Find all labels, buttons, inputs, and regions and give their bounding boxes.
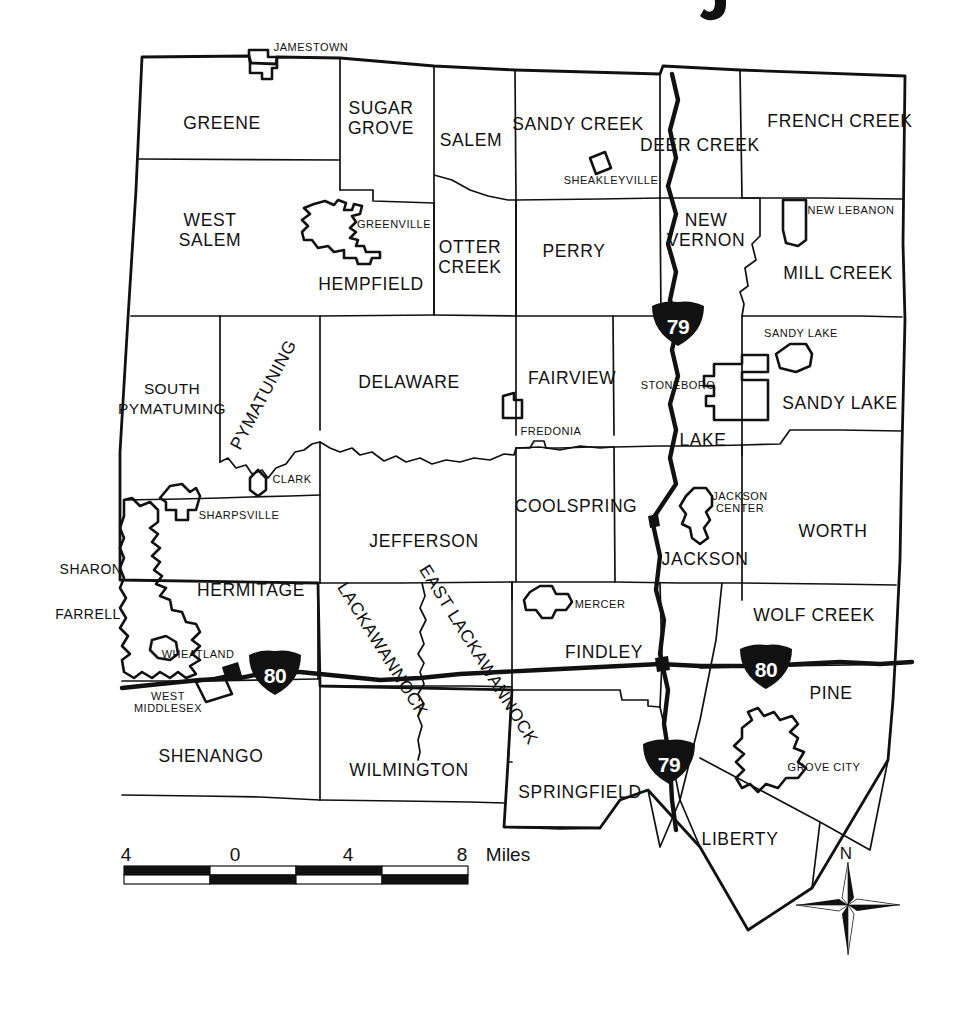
township-label-pymatuning: PYMATUNING bbox=[225, 336, 300, 453]
div-newvernon-millcreek bbox=[740, 198, 760, 316]
township-label-hermitage: HERMITAGE bbox=[197, 580, 305, 600]
compass-point-north-light bbox=[842, 862, 848, 905]
scale-tick-label-1: 0 bbox=[230, 844, 241, 865]
township-label-hempfield: HEMPFIELD bbox=[318, 274, 424, 294]
title-fragment bbox=[700, 0, 726, 20]
borough-label-mercer: MERCER bbox=[575, 598, 626, 610]
township-label-delaware: DELAWARE bbox=[358, 372, 460, 392]
township-label-wilmington: WILMINGTON bbox=[349, 760, 468, 780]
township-label-otter-creek: OTTERCREEK bbox=[438, 237, 501, 277]
township-label-deer-creek: DEER CREEK bbox=[640, 135, 760, 155]
scale-unit-label: Miles bbox=[486, 844, 530, 865]
scale-tick-label-3: 8 bbox=[457, 844, 468, 865]
township-label-lake: LAKE bbox=[679, 430, 726, 450]
borough-label-jackson-center: JACKSONCENTER bbox=[712, 490, 767, 514]
municipal-boundaries bbox=[120, 56, 905, 930]
scale-tick-label-0: 4 bbox=[121, 844, 132, 865]
township-label-jefferson: JEFFERSON bbox=[369, 531, 478, 551]
scale-bar-segment bbox=[124, 875, 210, 884]
city-label-farrell: FARRELL bbox=[55, 606, 121, 622]
township-label-sugar-grove: SUGARGROVE bbox=[348, 98, 414, 138]
township-label-sandy-lake: SANDY LAKE bbox=[782, 393, 898, 413]
scale-bar-segment bbox=[296, 875, 382, 884]
shield-route-number: 79 bbox=[658, 753, 680, 776]
scale-bar-segment bbox=[382, 875, 468, 884]
township-label-shenango: SHENANGO bbox=[159, 746, 264, 766]
div-lake-worth bbox=[742, 430, 902, 445]
borough-label-greenville: GREENVILLE bbox=[357, 218, 431, 230]
boro-sandy-lake bbox=[776, 344, 812, 372]
div-sugargrove-hempfield bbox=[340, 190, 434, 203]
township-label-liberty: LIBERTY bbox=[702, 829, 779, 849]
div-sandycreek-perry bbox=[516, 198, 660, 200]
scale-bar-segment bbox=[296, 866, 382, 875]
township-label-french-creek: FRENCH CREEK bbox=[767, 111, 912, 131]
boro-sheakleyville bbox=[590, 152, 611, 174]
scale-tick-label-2: 4 bbox=[343, 844, 354, 865]
scale-bar-segment bbox=[210, 875, 296, 884]
scale-bar-segment bbox=[124, 866, 210, 875]
div-frenchcreek-millcreek bbox=[742, 198, 903, 199]
township-label-springfield: SPRINGFIELD bbox=[518, 782, 641, 802]
div-greene-westsalem bbox=[139, 159, 340, 160]
township-label-lackawannock: LACKAWANNOCK bbox=[334, 578, 433, 720]
boro-greenville bbox=[302, 200, 380, 264]
compass-point-east-light bbox=[848, 899, 900, 905]
div-jefferson-lackawannock bbox=[320, 582, 896, 585]
township-label-sandy-creek: SANDY CREEK bbox=[512, 114, 644, 134]
div-salem-ottercreek bbox=[434, 175, 516, 200]
borough-label-jamestown: JAMESTOWN bbox=[274, 41, 349, 53]
township-label-east-lackawannock: EAST LACKAWANNOCK bbox=[416, 561, 543, 748]
city-label-sharon: SHARON bbox=[60, 561, 123, 577]
interstate-shield-80-2: 80 bbox=[249, 651, 301, 696]
mercer-county-map: 79798080 GREENESUGARGROVESALEMSANDY CREE… bbox=[0, 0, 956, 1015]
township-label-coolspring: COOLSPRING bbox=[515, 496, 638, 516]
borough-label-stoneboro: STONEBORO bbox=[641, 379, 716, 391]
interchange-marker-jackson bbox=[648, 514, 660, 528]
shield-route-number: 80 bbox=[264, 664, 286, 687]
township-label-south-pymatuming: SOUTHPYMATUMING bbox=[118, 380, 226, 417]
div-millcreek-sandylake bbox=[742, 316, 902, 317]
township-label-greene: GREENE bbox=[183, 113, 261, 133]
borough-label-wheatland: WHEATLAND bbox=[162, 648, 235, 660]
scale-bar-segment bbox=[210, 866, 296, 875]
boro-clark bbox=[250, 470, 266, 496]
map-canvas: 79798080 GREENESUGARGROVESALEMSANDY CREE… bbox=[0, 0, 956, 1015]
boro-mercer bbox=[524, 586, 572, 618]
township-label-jackson: JACKSON bbox=[662, 549, 749, 569]
div-springfield-south bbox=[504, 800, 620, 829]
borough-label-new-lebanon: NEW LEBANON bbox=[808, 204, 895, 216]
township-label-perry: PERRY bbox=[543, 241, 606, 261]
div-lackawannock-eastlack bbox=[418, 583, 426, 760]
township-label-fairview: FAIRVIEW bbox=[528, 368, 616, 388]
boro-jackson-center bbox=[680, 488, 712, 544]
div-findley-springfield bbox=[512, 690, 660, 707]
route-i79-line bbox=[652, 74, 678, 830]
borough-label-sheakleyville: SHEAKLEYVILLE bbox=[564, 174, 659, 186]
township-label-pine: PINE bbox=[809, 683, 852, 703]
township-label-worth: WORTH bbox=[799, 521, 868, 541]
interchange-marker-findley bbox=[655, 656, 670, 672]
scale-bar-segment bbox=[382, 866, 468, 875]
township-label-mill-creek: MILL CREEK bbox=[783, 263, 892, 283]
borough-label-grove-city: GROVE CITY bbox=[788, 761, 861, 773]
township-label-new-vernon: NEWVERNON bbox=[667, 210, 745, 250]
shield-route-number: 80 bbox=[755, 658, 777, 681]
div-perry-newvernon bbox=[660, 198, 661, 316]
township-label-findley: FINDLEY bbox=[565, 642, 643, 662]
div-westsalem-southpym bbox=[131, 315, 660, 316]
shield-route-number: 79 bbox=[667, 315, 689, 338]
borough-label-west-middlesex: WESTMIDDLESEX bbox=[134, 690, 202, 714]
borough-label-sharpsville: SHARPSVILLE bbox=[199, 509, 280, 521]
scale-bar: 4048Miles bbox=[121, 844, 530, 884]
county-outline bbox=[120, 56, 905, 930]
interstate-shield-80-3: 80 bbox=[740, 645, 792, 690]
township-label-salem: SALEM bbox=[440, 130, 502, 150]
borough-label-sandy-lake: SANDY LAKE bbox=[764, 327, 838, 339]
boro-fredonia bbox=[503, 393, 522, 418]
boro-grove-city bbox=[734, 708, 806, 792]
div-wilmington-south bbox=[320, 800, 504, 803]
interstate-shield-79-0: 79 bbox=[652, 302, 704, 347]
compass-north-label: N bbox=[840, 844, 852, 863]
township-label-west-salem: WESTSALEM bbox=[179, 210, 241, 250]
